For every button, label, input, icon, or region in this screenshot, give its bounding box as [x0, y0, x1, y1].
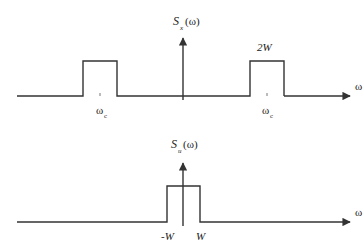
top-ylabel-sub: x: [179, 24, 184, 32]
top-ylabel-main: S: [173, 14, 179, 28]
bottom-plot: S u (ω) -W W ω: [17, 137, 362, 242]
top-left-tick-label: ω: [96, 104, 103, 116]
top-left-tick-sub: c: [104, 112, 107, 120]
bottom-spectrum-line: [17, 186, 290, 222]
bottom-ylabel-sub: u: [178, 147, 182, 155]
top-right-tick-label: ω: [262, 104, 269, 116]
bottom-ylabel-arg: (ω): [183, 138, 198, 151]
top-right-tick-sub: c: [270, 112, 273, 120]
bottom-pos-tick-label: W: [196, 230, 206, 242]
bottom-ylabel-main: S: [171, 137, 177, 151]
top-plot: S x (ω) 2W ω c ω c ω: [17, 14, 362, 120]
top-width-label: 2W: [257, 41, 273, 53]
bottom-xlabel: ω: [355, 206, 362, 218]
top-xlabel: ω: [355, 80, 362, 92]
top-ylabel-arg: (ω): [185, 15, 200, 28]
spectrum-diagram: S x (ω) 2W ω c ω c ω S u (ω) -W W ω: [0, 0, 364, 249]
bottom-neg-tick-label: -W: [161, 230, 175, 242]
top-spectrum-line: [17, 61, 284, 96]
